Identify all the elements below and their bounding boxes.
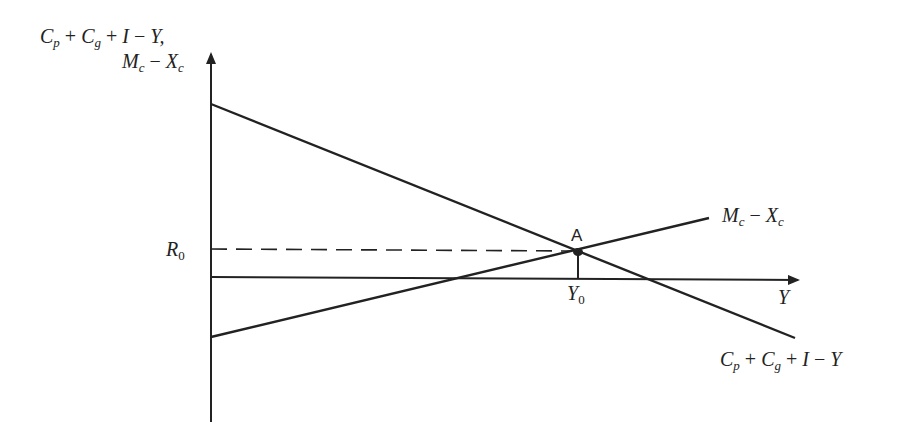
y-axis-label-line1: Cp + Cg + I − Y, [40,25,165,50]
x-axis [211,277,798,280]
equilibrium-point-a [573,248,583,256]
equilibrium-diagram: A Cp + Cg + I − Y, Mc − Xc R0 Y0 Y Mc − … [0,0,913,435]
r0-dashed-guide [211,249,572,251]
domestic-demand-line-label: Cp + Cg + I − Y [720,348,843,373]
point-a-label: A [571,226,583,245]
x-axis-label: Y [778,286,791,308]
y0-label: Y0 [567,282,585,307]
r0-label: R0 [165,238,185,263]
y-axis-label-line2: Mc − Xc [121,50,184,75]
net-imports-line-label: Mc − Xc [721,204,784,229]
line-domestic-demand [211,104,795,338]
